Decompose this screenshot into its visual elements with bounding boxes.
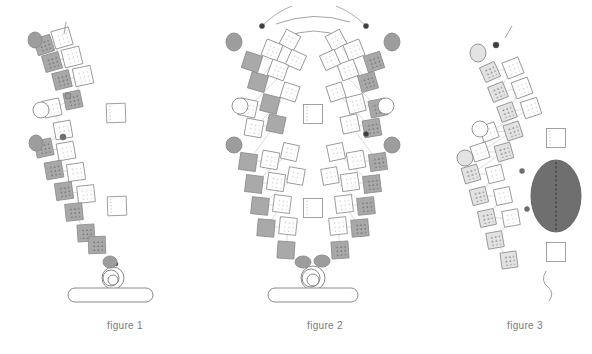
module-f2L-16 — [287, 167, 306, 186]
module-dot-texture — [503, 254, 515, 266]
module-body — [251, 197, 270, 216]
module-f1-17 — [107, 196, 127, 216]
module-f2L-3 — [247, 71, 268, 92]
module-dot-texture — [331, 219, 344, 232]
figure-2-left-whisker — [262, 6, 292, 26]
module-f2L-19 — [257, 219, 275, 237]
module-f2L-10 — [266, 114, 286, 134]
connector-node-f3-0 — [493, 42, 499, 48]
connector-node-f3-1 — [520, 169, 525, 174]
diagram-canvas — [0, 0, 592, 354]
module-body — [277, 241, 295, 259]
module-dot-texture — [329, 145, 342, 158]
module-body — [257, 219, 275, 237]
module-f2R-3 — [357, 71, 378, 92]
module-f2R-15 — [340, 172, 359, 191]
module-f3-12 — [485, 164, 504, 183]
connector-node-f1-1 — [60, 134, 66, 140]
module-f1-13 — [66, 162, 85, 181]
figure-3-caption: figure 3 — [465, 320, 585, 331]
module-f1-3 — [61, 46, 83, 68]
module-f1-5 — [72, 65, 93, 86]
module-f2R-10 — [340, 114, 360, 134]
module-dot-texture — [505, 212, 518, 225]
side-ellipse-f2-5 — [384, 137, 400, 153]
module-f2L-12 — [260, 150, 280, 170]
module-f2R-17 — [357, 197, 376, 216]
module-f2L-0 — [241, 51, 262, 72]
side-ellipse-f2-2 — [232, 98, 248, 114]
module-f2L-7 — [260, 94, 281, 115]
module-f3-16 — [502, 209, 521, 228]
module-dot-texture — [75, 68, 90, 83]
connector-node-f3-2 — [525, 207, 530, 212]
module-dot-texture — [275, 197, 288, 210]
module-dot-texture — [343, 117, 357, 131]
module-dot-texture — [59, 144, 73, 158]
module-f1-12 — [44, 160, 64, 180]
module-f2L-18 — [273, 195, 292, 214]
side-ellipse-f3-0 — [470, 44, 486, 62]
module-dot-texture — [79, 187, 92, 200]
figure-2-hub-ellipse-0 — [295, 256, 311, 268]
module-body — [266, 114, 286, 134]
module-f2L-14 — [245, 175, 264, 194]
module-f2R-13 — [327, 143, 346, 162]
figure-2-crown-arc-0 — [276, 16, 350, 24]
module-body — [107, 196, 127, 216]
module-body — [106, 103, 126, 123]
module-body — [247, 71, 268, 92]
module-f2R-16 — [321, 167, 340, 186]
module-f2R-12 — [346, 150, 366, 170]
module-body — [241, 51, 262, 72]
module-dot-texture — [283, 145, 296, 158]
connector-node-f2-2 — [363, 131, 368, 136]
module-dot-texture — [496, 189, 509, 202]
figure-3-antenna — [505, 26, 512, 38]
module-f3-1 — [502, 57, 524, 79]
module-dot-texture — [67, 205, 80, 218]
module-dot-texture — [353, 221, 366, 234]
module-f3-7 — [503, 121, 523, 141]
module-f2L-11 — [238, 152, 257, 171]
module-dot-texture — [489, 234, 502, 247]
module-f3-15 — [478, 209, 497, 228]
module-dot-texture — [247, 121, 261, 135]
module-f3-8 — [547, 129, 566, 148]
module-f2L-17 — [251, 197, 270, 216]
module-f1-15 — [77, 185, 96, 204]
module-dot-texture — [365, 177, 378, 190]
module-f2L-15 — [266, 172, 285, 191]
module-dot-texture — [57, 184, 71, 198]
module-f2R-14 — [363, 175, 382, 194]
module-f3-18 — [547, 243, 566, 262]
module-f3-0 — [479, 61, 500, 82]
coil-ring-2 — [307, 274, 319, 286]
side-ellipse-f1-2 — [29, 135, 43, 151]
connector-node-f2-1 — [363, 23, 368, 28]
side-ellipse-f2-4 — [226, 137, 242, 153]
module-f1-14 — [54, 181, 73, 200]
module-f2L-20 — [279, 217, 298, 236]
module-f2R-4 — [337, 59, 359, 81]
coil-ring-2 — [108, 275, 118, 285]
module-body — [547, 243, 566, 262]
side-ellipse-f2-3 — [378, 98, 394, 114]
module-f1-6 — [63, 90, 83, 110]
module-f3-11 — [461, 164, 481, 184]
side-ellipse-f2-1 — [384, 33, 400, 51]
figure-2-drawing — [226, 6, 400, 302]
module-body — [304, 199, 323, 218]
module-f3-13 — [469, 186, 488, 205]
side-ellipse-f1-1 — [33, 102, 49, 118]
figure-1-drawing — [28, 22, 153, 302]
module-dot-texture — [69, 165, 83, 179]
module-f3-19 — [500, 251, 518, 269]
module-f2L-4 — [267, 59, 289, 81]
figure-3-drawing — [457, 26, 581, 301]
figure-2-right-whisker — [336, 6, 366, 26]
module-dot-texture — [334, 244, 347, 257]
module-f2R-7 — [346, 94, 367, 115]
module-dot-texture — [480, 211, 493, 224]
module-dot-texture — [371, 155, 385, 169]
